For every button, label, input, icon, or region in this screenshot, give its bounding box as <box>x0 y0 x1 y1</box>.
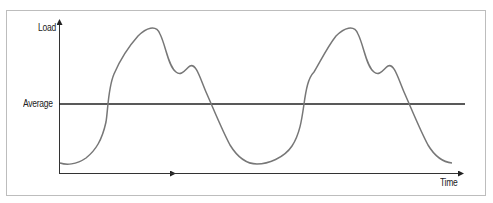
y-axis-label: Load <box>38 22 56 33</box>
load-curve <box>60 28 452 164</box>
x-axis-label: Time <box>440 177 458 188</box>
load-chart <box>0 0 493 203</box>
average-label: Average <box>23 98 53 109</box>
